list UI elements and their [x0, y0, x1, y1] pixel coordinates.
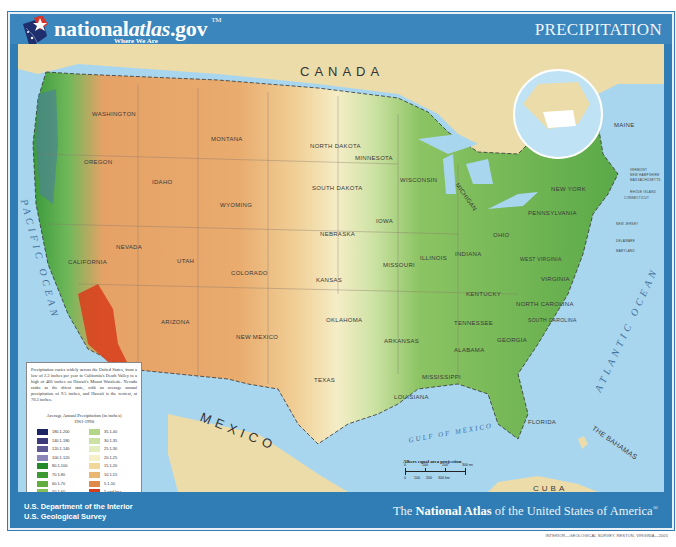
label-georgia: GEORGIA: [497, 337, 527, 343]
label-utah: UTAH: [177, 258, 194, 264]
label-missouri: MISSOURI: [383, 262, 415, 268]
scale-tick: [425, 468, 426, 472]
label-new-jersey: NEW JERSEY: [616, 222, 639, 226]
legend-title: Average Annual Precipitation (in inches)…: [29, 413, 139, 425]
legend-swatch: [37, 472, 48, 478]
label-connecticut: CONNECTICUT: [624, 196, 649, 200]
legend-label: 100.1-120: [52, 455, 70, 460]
label-alabama: ALABAMA: [454, 347, 484, 353]
legend-label: 180.1-200: [52, 429, 70, 434]
atlas-title: The National Atlas of the United States …: [393, 504, 658, 519]
label-florida: FLORIDA: [528, 419, 556, 425]
legend-label: 10.1-15: [104, 472, 117, 477]
legend-label: 5.1-10: [104, 481, 115, 486]
legend-label: 70.1-80: [52, 472, 65, 477]
label-arizona: ARIZONA: [161, 319, 190, 325]
legend-label: 60.1-70: [52, 481, 65, 486]
label-wyoming: WYOMING: [220, 202, 252, 208]
scale-mile-label: 0: [404, 463, 406, 467]
footer-bar: U.S. Department of the Interior U.S. Geo…: [10, 492, 672, 528]
label-washington: WASHINGTON: [92, 111, 136, 117]
label-montana: MONTANA: [211, 136, 243, 142]
legend-swatch: [37, 455, 48, 461]
label-illinois: ILLINOIS: [420, 255, 447, 261]
header-bar: nationalatlas.govTM Where We Are PRECIPI…: [10, 14, 672, 44]
label-minnesota: MINNESOTA: [355, 155, 393, 161]
legend-label: 35.1-40: [104, 429, 117, 434]
legend-label: 120.1-140: [52, 446, 70, 451]
label-rhode-island: RHODE ISLAND: [630, 190, 656, 194]
legend-swatch: [89, 446, 100, 452]
legend-swatch: [37, 446, 48, 452]
label-colorado: COLORADO: [231, 270, 268, 276]
scale-tick: [445, 468, 446, 472]
atlas-bold: National Atlas: [416, 504, 492, 518]
trademark: TM: [211, 16, 221, 24]
legend-period: 1961-1990: [29, 419, 139, 425]
legend-swatch: [89, 481, 100, 487]
label-ohio: OHIO: [493, 232, 510, 238]
label-oregon: OREGON: [84, 159, 112, 165]
legend-label: 15.1-20: [104, 463, 117, 468]
legend-label: 30.1-35: [104, 438, 117, 443]
legend-swatch: [37, 438, 48, 444]
label-louisiana: LOUISIANA: [394, 394, 429, 400]
scale-mile-label: 200: [442, 463, 448, 467]
label-new-hampshire: NEW HAMPSHIRE: [630, 173, 660, 177]
label-kentucky: KENTUCKY: [466, 291, 501, 297]
scale-tick: [465, 468, 466, 475]
scale-mile-label: 100: [422, 463, 428, 467]
scale-line: [405, 471, 465, 472]
label-indiana: INDIANA: [455, 251, 481, 257]
legend-label: 140.1-180: [52, 438, 70, 443]
scale-km-label: 300 km: [438, 476, 450, 480]
legend-swatch: [37, 463, 48, 469]
legend-label: 25.1-30: [104, 446, 117, 451]
label-north-carolina: NORTH CAROLINA: [516, 301, 574, 307]
label-wisconsin: WISCONSIN: [400, 177, 437, 183]
label-virginia: VIRGINIA: [541, 276, 570, 282]
label-new-mexico: NEW MEXICO: [236, 334, 278, 340]
label-iowa: IOWA: [376, 218, 393, 224]
brand-suffix: .gov: [170, 16, 207, 41]
precipitation-description: Precipitation varies widely across the U…: [31, 367, 137, 404]
label-vermont: VERMONT: [630, 168, 647, 172]
scale-bar: Albers equal area projection 0 100 200 3…: [403, 459, 483, 489]
legend-swatch: [89, 472, 100, 478]
label-new-york: NEW YORK: [551, 186, 586, 192]
label-south-dakota: SOUTH DAKOTA: [312, 185, 363, 191]
publisher-credit: INTERIOR—GEOLOGICAL SURVEY, RESTON, VIRG…: [545, 533, 668, 538]
agency-credit: U.S. Department of the Interior U.S. Geo…: [24, 502, 133, 522]
scale-tick: [405, 468, 406, 475]
label-cuba: CUBA: [533, 484, 567, 492]
scale-km-label: 0: [404, 476, 406, 480]
agency-line-1: U.S. Department of the Interior: [24, 502, 133, 512]
legend-swatch: [37, 481, 48, 487]
label-delaware: DELAWARE: [616, 239, 635, 243]
label-massachusetts: MASSACHUSETTS: [630, 178, 661, 182]
legend-swatch: [89, 438, 100, 444]
legend-swatch: [89, 455, 100, 461]
label-kansas: KANSAS: [316, 277, 342, 283]
label-north-dakota: NORTH DAKOTA: [310, 143, 361, 149]
label-nebraska: NEBRASKA: [320, 231, 355, 237]
label-california: CALIFORNIA: [68, 259, 107, 265]
scale-mile-label: 300 mi: [462, 463, 473, 467]
label-arkansas: ARKANSAS: [384, 338, 419, 344]
label-maryland: MARYLAND: [616, 249, 635, 253]
legend-panel: Precipitation varies widely across the U…: [26, 362, 142, 492]
label-south-carolina: SOUTH CAROLINA: [528, 317, 577, 323]
label-texas: TEXAS: [314, 377, 335, 383]
label-oklahoma: OKLAHOMA: [326, 317, 362, 323]
precipitation-map: CANADA MEXICO CUBA THE BAHAMAS PACIFIC O…: [18, 44, 664, 492]
legend-swatch: [89, 463, 100, 469]
label-mississippi: MISSISSIPPI: [422, 374, 461, 380]
map-frame: nationalatlas.govTM Where We Are PRECIPI…: [8, 12, 674, 530]
label-pennsylvania: PENNSYLVANIA: [528, 210, 577, 216]
scale-km-label: 100: [414, 476, 420, 480]
legend-label: 20.1-25: [104, 455, 117, 460]
scale-km-label: 200: [426, 476, 432, 480]
atlas-prefix: The: [393, 504, 416, 518]
agency-line-2: U.S. Geological Survey: [24, 512, 133, 522]
atlas-suffix: of the United States of America: [492, 504, 653, 518]
